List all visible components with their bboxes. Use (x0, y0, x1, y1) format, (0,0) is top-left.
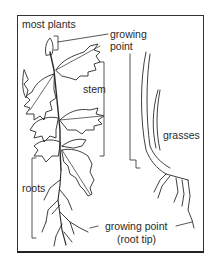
grass-blade-2 (153, 90, 160, 150)
label-grasses: grasses (163, 130, 200, 141)
bracket-stem (100, 62, 104, 156)
label-growing-point-top-line1: growing (110, 29, 147, 40)
label-growing-point-bottom: growing point (105, 221, 167, 232)
label-stem: stem (83, 84, 106, 95)
leaf-middle-right (60, 108, 104, 134)
label-roots: roots (22, 183, 45, 194)
label-root-tip: (root tip) (117, 234, 156, 245)
plant-roots (58, 170, 66, 245)
leaf-left (24, 74, 56, 120)
plant-stem (50, 52, 61, 170)
leaf-lower-right (62, 149, 94, 196)
leaf-middle-left (30, 117, 58, 142)
label-growing-point-top-line2: point (110, 41, 133, 52)
bracket-most-plants (54, 36, 58, 50)
apical-bud (45, 38, 53, 55)
label-most-plants: most plants (22, 19, 76, 30)
bracket-grass-growing (130, 54, 140, 168)
leader-growing-point-top (58, 34, 108, 42)
grass-blade-1 (142, 52, 189, 180)
bracket-roots (32, 158, 36, 238)
leader-root-tip-left (90, 226, 98, 228)
leader-root-tip-right (176, 222, 192, 226)
